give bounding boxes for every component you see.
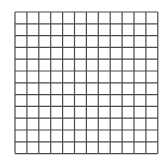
square-grid bbox=[14, 11, 159, 155]
